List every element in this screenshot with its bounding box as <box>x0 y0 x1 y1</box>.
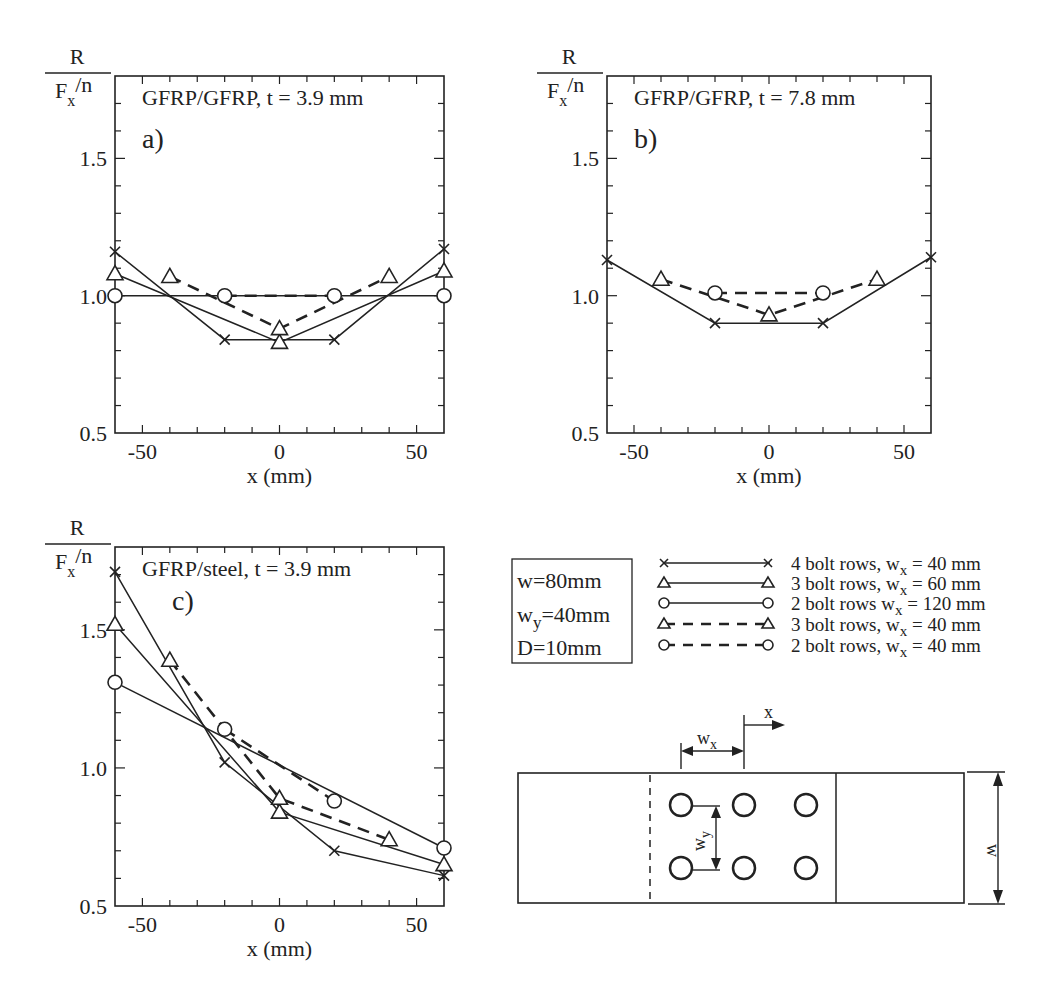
circle-marker <box>437 841 451 855</box>
x-direction-label: x <box>764 702 773 722</box>
x-tick-label: 0 <box>764 439 775 464</box>
wx-label: wx <box>697 728 717 752</box>
y-tick-label: 1.5 <box>80 146 108 171</box>
y-tick-label: 0.5 <box>572 421 600 446</box>
legend: 4 bolt rows, wx = 40 mm3 bolt rows, wx =… <box>658 553 986 660</box>
circle-marker <box>327 289 341 303</box>
series-circle-dashed <box>708 286 830 300</box>
panel-title: GFRP/GFRP, t = 3.9 mm <box>142 85 363 110</box>
x-axis-label: x (mm) <box>736 463 801 488</box>
x-tick-label: 0 <box>274 439 285 464</box>
circle-marker <box>108 675 122 689</box>
circle-marker <box>816 286 830 300</box>
x-marker <box>220 757 230 767</box>
y-tick-label: 1.0 <box>80 284 108 309</box>
w-dimension <box>967 772 1005 904</box>
legend-label: 2 bolt rows, wx = 40 mm <box>791 635 981 660</box>
circle-marker <box>108 289 122 303</box>
circle-marker <box>708 286 722 300</box>
y-tick-label: 1.0 <box>80 756 108 781</box>
panel-letter: a) <box>142 123 164 154</box>
bolt-holes <box>670 794 817 879</box>
series-triangle-solid <box>107 616 452 870</box>
x-marker <box>329 846 339 856</box>
ticks <box>115 76 444 433</box>
y-axis-label: RFx/n <box>45 44 111 109</box>
legend-item: 2 bolt rows, wx = 40 mm <box>659 635 981 660</box>
x-tick-label: 50 <box>406 912 428 937</box>
y-label-numerator: R <box>70 515 85 540</box>
triangle-marker <box>436 263 452 277</box>
triangle-marker <box>162 652 178 666</box>
panel-letter: c) <box>172 585 194 616</box>
y-tick-label: 1.5 <box>572 146 600 171</box>
y-label-numerator: R <box>70 44 85 69</box>
series-triangle-dashed <box>653 271 885 321</box>
triangle-marker <box>162 268 178 282</box>
x-tick-label: 0 <box>274 912 285 937</box>
x-tick-label: 50 <box>893 439 915 464</box>
triangle-marker <box>869 271 885 285</box>
x-axis-label: x (mm) <box>247 936 312 961</box>
triangle-marker <box>107 616 123 630</box>
triangle-marker <box>272 321 288 335</box>
ticks <box>115 547 444 906</box>
y-label-denominator: Fx/n <box>547 72 584 109</box>
triangle-marker <box>381 268 397 282</box>
bolt-layout-diagram: wy wx x w <box>518 702 1005 904</box>
figure: 0.51.01.5-50050x (mm)RFx/nGFRP/GFRP, t =… <box>0 0 1046 1004</box>
param-wy: wy=40mm <box>517 602 610 632</box>
x-tick-label: 50 <box>406 439 428 464</box>
y-tick-label: 0.5 <box>80 421 108 446</box>
circle-marker <box>327 794 341 808</box>
panel-c-chart: 0.51.01.5-50050x (mm)RFx/nGFRP/steel, t … <box>45 515 452 961</box>
param-w: w=80mm <box>517 568 602 593</box>
y-label-denominator: Fx/n <box>55 543 92 580</box>
triangle-marker <box>272 334 288 348</box>
x-tick-label: -50 <box>128 439 157 464</box>
x-tick-label: -50 <box>128 912 157 937</box>
x-tick-label: -50 <box>619 439 648 464</box>
x-axis-label: x (mm) <box>247 463 312 488</box>
y-axis-label: RFx/n <box>537 44 603 109</box>
panel-a-chart: 0.51.01.5-50050x (mm)RFx/nGFRP/GFRP, t =… <box>45 44 452 488</box>
axes-frame <box>115 76 444 433</box>
circle-marker <box>437 289 451 303</box>
series-x-solid <box>110 567 449 881</box>
axes-frame <box>115 547 444 906</box>
panel-letter: b) <box>634 123 657 154</box>
panel-title: GFRP/GFRP, t = 7.8 mm <box>634 85 855 110</box>
panel-b-chart: 0.51.01.5-50050x (mm)RFx/nGFRP/GFRP, t =… <box>537 44 936 488</box>
y-tick-label: 1.0 <box>572 284 600 309</box>
wy-label: wy <box>689 831 713 851</box>
y-tick-label: 0.5 <box>80 894 108 919</box>
y-tick-label: 1.5 <box>80 618 108 643</box>
param-d: D=10mm <box>517 635 602 660</box>
circle-marker <box>218 722 232 736</box>
y-label-numerator: R <box>562 44 577 69</box>
parameters-box: w=80mm wy=40mm D=10mm <box>512 559 632 663</box>
circle-marker <box>218 289 232 303</box>
y-axis-label: RFx/n <box>45 515 111 580</box>
panel-title: GFRP/steel, t = 3.9 mm <box>142 556 351 581</box>
series-triangle-solid <box>107 263 452 348</box>
y-label-denominator: Fx/n <box>55 72 92 109</box>
series-triangle-dashed <box>162 268 397 334</box>
w-label: w <box>983 844 1003 857</box>
triangle-marker <box>653 271 669 285</box>
